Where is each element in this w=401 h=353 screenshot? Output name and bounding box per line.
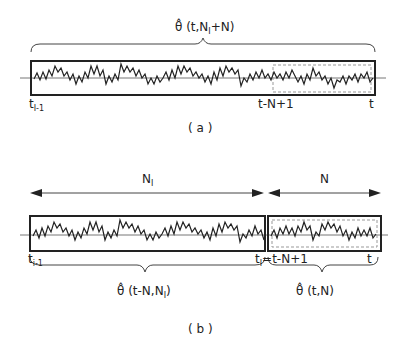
brace-bottom-left	[30, 257, 265, 272]
arrowhead-right-end	[369, 189, 381, 197]
mid-tick-a: t-N+1	[258, 97, 294, 111]
mid-tick-tail-b: =t-N+1	[262, 252, 308, 266]
right-tick-a: t	[369, 97, 374, 111]
mid-tick-b: tI=t-N+1	[255, 252, 308, 268]
arrowhead-left-end	[252, 189, 264, 197]
arrowhead-right-start	[268, 189, 280, 197]
signal-window-b-right	[268, 216, 381, 251]
left-tick-sub-a: I-1	[34, 104, 44, 113]
estimate-text-a: θ̂ (t,N	[175, 20, 208, 34]
right-tick-b: t	[367, 252, 372, 266]
span-left-text: N	[142, 172, 151, 186]
estimate-tail-a: +N)	[211, 20, 235, 34]
estimate-left-text-b: θ̂ (t-N,N	[117, 284, 164, 298]
span-left-sub: I	[151, 179, 153, 188]
span-left-label: NI	[142, 172, 153, 188]
brace-top-a	[31, 38, 375, 52]
caption-a: ( a )	[188, 121, 212, 135]
signal-window-b-left	[30, 216, 265, 251]
recent-window-b	[272, 220, 377, 247]
arrowhead-left-start	[30, 189, 42, 197]
estimate-left-tail-b: )	[166, 284, 171, 298]
span-right-label: N	[320, 172, 329, 186]
signal-trace-b-left	[33, 220, 264, 242]
signal-trace-b-right	[271, 222, 376, 240]
estimate-left-label-b: θ̂ (t-N,NI)	[117, 284, 171, 300]
caption-b: ( b )	[188, 322, 213, 336]
estimate-right-label-b: θ̂ (t,N)	[296, 284, 334, 298]
left-tick-sub-b: i-1	[33, 259, 43, 268]
estimate-label-a: θ̂ (t,NI+N)	[175, 20, 234, 36]
left-tick-b: ti-1	[28, 252, 43, 268]
signal-trace-a	[34, 64, 373, 88]
left-tick-a: tI-1	[29, 97, 44, 113]
diagram-canvas	[0, 0, 401, 353]
